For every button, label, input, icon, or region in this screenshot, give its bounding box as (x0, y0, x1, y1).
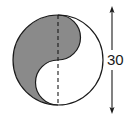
figure-root: 30 (0, 0, 129, 120)
yin-yang-diagram-svg: 30 (0, 0, 129, 120)
dimension-label: 30 (107, 51, 124, 68)
